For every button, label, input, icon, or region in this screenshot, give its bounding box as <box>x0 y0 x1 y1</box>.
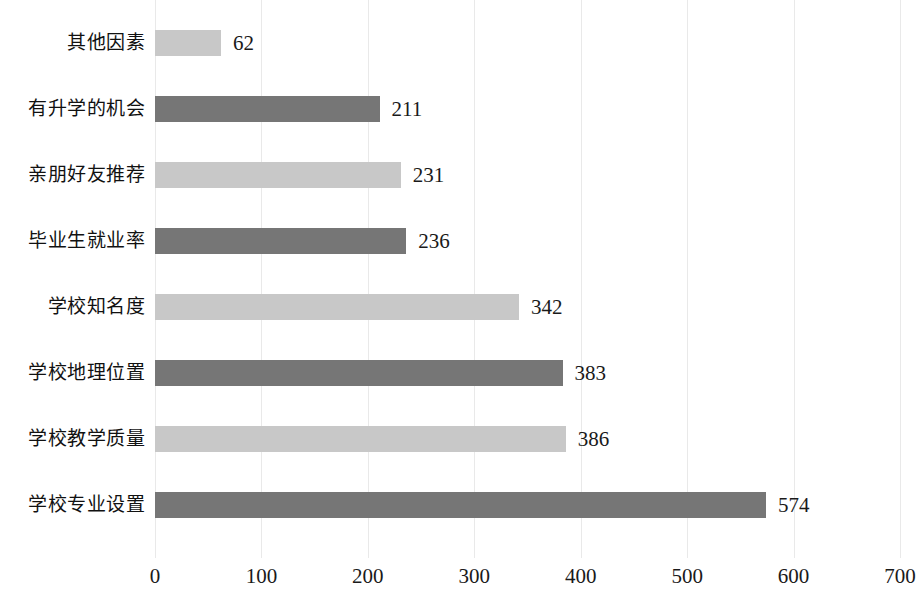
plot-area: 62 211 231 236 342 <box>155 0 900 558</box>
cat-slot: 有升学的机会 <box>0 76 145 142</box>
cat-slot: 其他因素 <box>0 10 145 76</box>
bar-school-reputation[interactable] <box>155 294 519 320</box>
bar-value-label: 62 <box>233 31 254 55</box>
x-axis: 0 100 200 300 400 500 600 700 <box>155 558 900 594</box>
bar-row: 386 <box>155 406 900 472</box>
bar-row: 236 <box>155 208 900 274</box>
bar-row: 62 <box>155 10 900 76</box>
gridline-700 <box>900 0 901 558</box>
x-tick-200: 200 <box>352 564 384 589</box>
category-axis: 其他因素 有升学的机会 亲朋好友推荐 毕业生就业率 学校知名度 学校地理位置 学… <box>0 0 145 558</box>
category-label-school-reputation: 学校知名度 <box>0 294 145 320</box>
cat-slot: 学校教学质量 <box>0 406 145 472</box>
bar-friends-recommendation[interactable] <box>155 162 401 188</box>
x-tick-500: 500 <box>671 564 703 589</box>
category-label-major-offerings: 学校专业设置 <box>0 492 145 518</box>
bar-graduate-employment-rate[interactable] <box>155 228 406 254</box>
cat-slot: 亲朋好友推荐 <box>0 142 145 208</box>
bar-row: 231 <box>155 142 900 208</box>
x-tick-400: 400 <box>565 564 597 589</box>
bar-value-label: 342 <box>531 295 563 319</box>
bar-chart: 62 211 231 236 342 <box>0 0 916 594</box>
category-label-school-location: 学校地理位置 <box>0 360 145 386</box>
cat-slot: 学校专业设置 <box>0 472 145 538</box>
bar-value-label: 211 <box>392 97 423 121</box>
bar-row: 574 <box>155 472 900 538</box>
category-label-friends-recommendation: 亲朋好友推荐 <box>0 162 145 188</box>
bar-teaching-quality[interactable] <box>155 426 566 452</box>
x-tick-300: 300 <box>459 564 491 589</box>
bar-value-label: 386 <box>578 427 610 451</box>
x-tick-0: 0 <box>150 564 161 589</box>
category-label-teaching-quality: 学校教学质量 <box>0 426 145 452</box>
cat-slot: 毕业生就业率 <box>0 208 145 274</box>
bar-row: 342 <box>155 274 900 340</box>
x-tick-100: 100 <box>246 564 278 589</box>
category-label-graduate-employment-rate: 毕业生就业率 <box>0 228 145 254</box>
bar-row: 383 <box>155 340 900 406</box>
cat-slot: 学校知名度 <box>0 274 145 340</box>
x-tick-600: 600 <box>778 564 810 589</box>
bar-value-label: 383 <box>575 361 607 385</box>
category-label-other-factors: 其他因素 <box>0 30 145 56</box>
bar-row: 211 <box>155 76 900 142</box>
bar-other-factors[interactable] <box>155 30 221 56</box>
bar-value-label: 231 <box>413 163 445 187</box>
bar-major-offerings[interactable] <box>155 492 766 518</box>
cat-slot: 学校地理位置 <box>0 340 145 406</box>
bar-value-label: 236 <box>418 229 450 253</box>
category-label-further-study-chance: 有升学的机会 <box>0 96 145 122</box>
x-tick-700: 700 <box>884 564 916 589</box>
bar-school-location[interactable] <box>155 360 563 386</box>
bar-further-study-chance[interactable] <box>155 96 380 122</box>
bar-value-label: 574 <box>778 493 810 517</box>
